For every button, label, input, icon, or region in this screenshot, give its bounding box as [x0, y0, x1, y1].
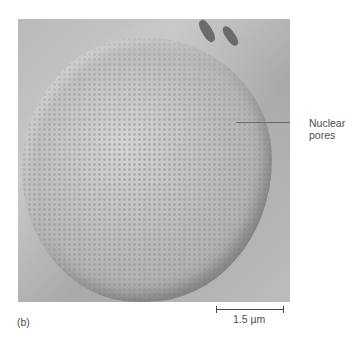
membrane-fold: [221, 24, 241, 47]
annotation-leader-line: [236, 122, 290, 123]
scale-bar: [216, 309, 284, 310]
annotation-line-1: Nuclear: [309, 117, 345, 129]
membrane-fold: [197, 19, 218, 44]
annotation-label: Nuclear pores: [309, 117, 345, 141]
panel-label: (b): [17, 316, 30, 328]
scale-bar-label: 1.5 µm: [233, 313, 265, 325]
nucleus-surface: [22, 37, 272, 302]
annotation-line-2: pores: [309, 129, 345, 141]
nuclear-pore-pattern: [22, 37, 272, 302]
electron-micrograph: [18, 19, 290, 302]
